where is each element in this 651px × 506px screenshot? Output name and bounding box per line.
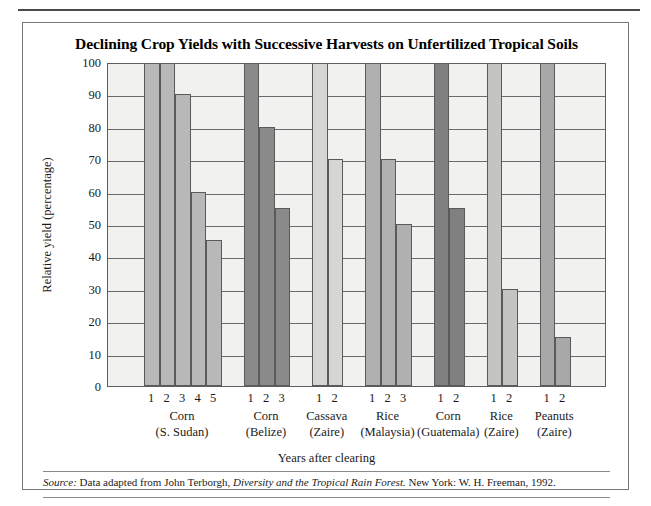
group-label: Peanuts(Zaire)	[535, 409, 574, 440]
group-place: (Zaire)	[484, 425, 519, 441]
y-tick-label: 70	[89, 153, 102, 168]
y-axis-tick-labels: 0102030405060708090100	[65, 63, 101, 387]
group-crop: Corn	[156, 409, 209, 425]
source-book-title: Diversity and the Tropical Rain Forest.	[233, 476, 406, 488]
figure-page: Declining Crop Yields with Successive Ha…	[0, 0, 651, 506]
x-tick-label: 2	[263, 391, 269, 406]
group-label: Corn(Belize)	[246, 409, 286, 440]
plot-wrapper: Relative yield (percentage) 010203040506…	[107, 63, 606, 387]
group-place: (Malaysia)	[360, 425, 414, 441]
bar	[502, 289, 518, 386]
y-tick-label: 50	[89, 218, 102, 233]
bar	[275, 208, 291, 386]
bar	[540, 63, 556, 386]
x-tick-label: 2	[384, 391, 390, 406]
bar	[191, 192, 207, 386]
group-crop: Rice	[484, 409, 519, 425]
x-tick-label: 3	[179, 391, 185, 406]
bar	[487, 63, 503, 386]
group-place: (Zaire)	[535, 425, 574, 441]
bar	[175, 94, 191, 386]
bar	[312, 63, 328, 386]
group-place: (Guatemala)	[417, 425, 479, 441]
x-tick-label: 3	[278, 391, 284, 406]
x-tick-label: 2	[559, 391, 565, 406]
group-crop: Peanuts	[535, 409, 574, 425]
bar	[244, 63, 260, 386]
bar	[434, 63, 450, 386]
y-axis-title: Relative yield (percentage)	[40, 105, 55, 345]
bar	[206, 240, 222, 386]
y-tick-label: 60	[89, 185, 102, 200]
y-tick-label: 90	[89, 88, 102, 103]
x-tick-label: 1	[369, 391, 375, 406]
source-text-tail: New York: W. H. Freeman, 1992.	[406, 476, 556, 488]
x-tick-label: 1	[316, 391, 322, 406]
y-tick-label: 20	[89, 315, 102, 330]
group-crop: Corn	[246, 409, 286, 425]
group-crop: Rice	[360, 409, 414, 425]
top-divider-rule	[18, 9, 640, 11]
bar	[160, 63, 176, 386]
y-tick-label: 0	[95, 380, 101, 395]
x-axis-group-labels: Corn(S. Sudan)Corn(Belize)Cassava(Zaire)…	[107, 409, 606, 449]
x-tick-label: 1	[490, 391, 496, 406]
chart-title: Declining Crop Yields with Successive Ha…	[23, 35, 630, 53]
y-tick-label: 10	[89, 347, 102, 362]
figure-container: Declining Crop Yields with Successive Ha…	[22, 22, 629, 490]
x-tick-label: 2	[331, 391, 337, 406]
group-label: Cassava(Zaire)	[306, 409, 347, 440]
x-tick-label: 2	[163, 391, 169, 406]
x-tick-label: 5	[210, 391, 216, 406]
x-tick-label: 4	[194, 391, 200, 406]
group-crop: Corn	[417, 409, 479, 425]
x-tick-label: 1	[247, 391, 253, 406]
x-tick-label: 2	[453, 391, 459, 406]
bars-layer	[108, 64, 605, 386]
x-tick-label: 2	[506, 391, 512, 406]
group-label: Corn(Guatemala)	[417, 409, 479, 440]
group-place: (Zaire)	[306, 425, 347, 441]
bar	[555, 337, 571, 386]
bar	[365, 63, 381, 386]
group-label: Rice(Zaire)	[484, 409, 519, 440]
x-tick-label: 1	[543, 391, 549, 406]
bar	[396, 224, 412, 386]
bar	[381, 159, 397, 386]
y-tick-label: 100	[82, 56, 101, 71]
x-tick-label: 1	[148, 391, 154, 406]
x-axis-tick-labels: 1234512312123121212	[107, 391, 606, 407]
bar	[328, 159, 344, 386]
source-text-lead: Data adapted from John Terborgh,	[77, 476, 233, 488]
x-axis-title: Years after clearing	[23, 451, 630, 466]
source-bottom-rule	[43, 497, 610, 498]
bar	[144, 63, 160, 386]
bar	[259, 127, 275, 386]
x-tick-label: 3	[400, 391, 406, 406]
source-top-rule	[43, 471, 610, 472]
y-tick-label: 30	[89, 282, 102, 297]
group-label: Corn(S. Sudan)	[156, 409, 209, 440]
group-label: Rice(Malaysia)	[360, 409, 414, 440]
source-note: Source: Data adapted from John Terborgh,…	[43, 475, 613, 490]
bar	[449, 208, 465, 386]
x-tick-label: 1	[437, 391, 443, 406]
source-label: Source:	[43, 476, 77, 488]
y-tick-label: 40	[89, 250, 102, 265]
group-crop: Cassava	[306, 409, 347, 425]
group-place: (S. Sudan)	[156, 425, 209, 441]
plot-area	[107, 63, 606, 387]
y-tick-label: 80	[89, 120, 102, 135]
group-place: (Belize)	[246, 425, 286, 441]
